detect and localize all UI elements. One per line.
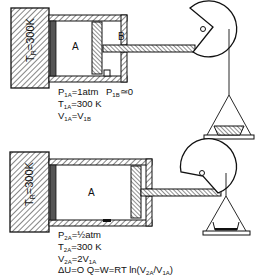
pulley-axle-top [201,27,206,32]
cylinder-top-wall-upper [49,15,127,21]
reservoir-label-top: TR=300K [24,17,37,62]
reservoir-label-bottom: TR=300K [23,161,36,206]
diathermal-wall-bottom [50,165,56,220]
chamber-a-label-top: A [72,41,79,52]
cylinder-bottom-end-wall-upper [146,159,152,189]
state2-pressure-a: P2A=½atm [58,229,101,241]
hanger-left-bottom [206,196,226,231]
state2-temperature-a: T2A=300 K [58,241,102,253]
valve-bottom [103,219,111,222]
partition-bottom [131,166,141,218]
cylinder-top-end-wall-lower [121,52,127,82]
energy-balance: ΔU=O Q=W=RT ln(V2A/V1A) [58,264,173,275]
cylinder-bottom-end-wall-lower [146,196,152,226]
cylinder-top-wall-lower [49,76,127,82]
weight-bottom-fill [215,228,237,230]
cylinder-bottom-wall-lower [49,220,152,226]
bottom-state: TR=300K A P2A=½atm T2A=300 K V2A=2V1A ΔU… [10,139,250,275]
cylinder-bottom-wall-upper [49,159,152,165]
state1-pressure-a: P1A=1atm [58,86,98,98]
hanger-right-bottom [226,196,246,231]
state1-volume-a: V1A=V1B [58,110,91,122]
state1-temperature-a: T1A=300 K [58,98,102,110]
pulley-axle-bottom [200,171,205,176]
state1-pressure-b: P1B≃0 [106,86,133,98]
weights-top [214,126,244,135]
diathermal-wall-top [50,21,56,76]
pulley-cam-bottom [180,139,236,193]
pulley-cam-top [190,1,237,57]
piston-rod-bottom [141,189,221,196]
top-state: TR=300K A B P1A=1atm P1B≃0 T1A=300 [11,1,254,139]
weight-pan-bottom [203,231,250,235]
chamber-a-label-bottom: A [88,187,95,198]
valve-top [104,70,110,76]
chamber-b-label-top: B [118,31,125,42]
partition-top [92,22,102,74]
diagram: TR=300K A B P1A=1atm P1B≃0 T1A=300 [0,0,256,275]
piston-rod-top [103,45,195,52]
